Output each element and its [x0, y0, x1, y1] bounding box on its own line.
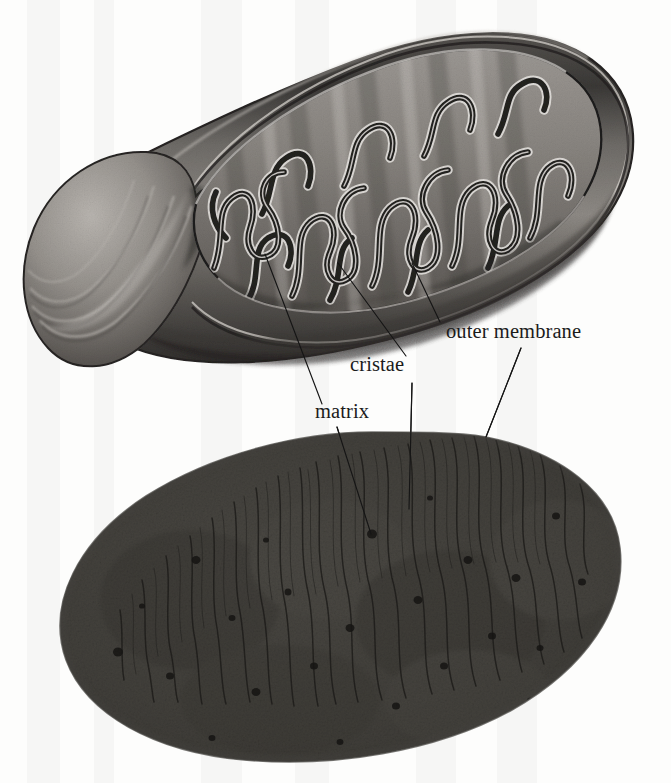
- mitochondrion-micrograph: [0, 0, 671, 783]
- micrograph-body: [40, 420, 640, 780]
- figure-panel: outer membrane cristae matrix: [0, 0, 671, 783]
